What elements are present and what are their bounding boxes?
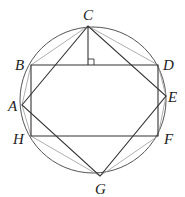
geometry-diagram: C B D A E H F G	[0, 0, 185, 197]
label-f: F	[163, 131, 174, 147]
label-e: E	[167, 89, 177, 105]
label-h: H	[12, 131, 25, 147]
circle	[20, 27, 166, 173]
chord-ef	[158, 96, 166, 136]
rectangle-bdfh	[31, 65, 158, 136]
label-g: G	[95, 181, 106, 197]
chord-cd	[88, 26, 158, 65]
label-d: D	[162, 57, 174, 73]
chord-fg	[100, 136, 158, 176]
chord-cb	[31, 26, 88, 65]
label-b: B	[15, 57, 24, 73]
chord-hg	[31, 136, 100, 176]
label-a: A	[7, 98, 18, 114]
right-angle-mark	[88, 59, 94, 65]
label-c: C	[83, 7, 94, 23]
